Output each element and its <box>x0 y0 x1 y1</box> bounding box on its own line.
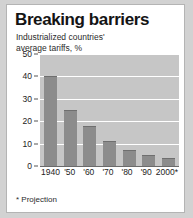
bar <box>162 158 175 166</box>
chart-plot-wrapper: 01020304050 1940'50'60'70'80'902000* <box>16 54 179 184</box>
bar-series <box>40 54 179 166</box>
chart-card: Breaking barriers Industrialized countri… <box>6 4 185 213</box>
y-axis-tick-label: 50 <box>23 49 32 59</box>
bar-slot <box>158 54 178 166</box>
bar <box>123 150 136 166</box>
y-axis-tick-label: 20 <box>23 116 32 126</box>
y-axis-tick-mark <box>34 143 38 144</box>
bar <box>103 141 116 166</box>
y-axis-tick-label: 40 <box>23 71 32 81</box>
y-axis: 01020304050 <box>16 54 38 166</box>
x-axis-tick-label: '60 <box>79 167 98 177</box>
bar <box>142 155 155 166</box>
x-axis-tick-label: 1940 <box>41 167 60 177</box>
y-axis-tick-label: 10 <box>23 139 32 149</box>
bar-slot <box>100 54 120 166</box>
bar-slot <box>61 54 81 166</box>
y-axis-tick-mark <box>34 121 38 122</box>
y-axis-tick-mark <box>34 76 38 77</box>
bar-slot <box>80 54 100 166</box>
bar-slot <box>119 54 139 166</box>
page-title: Breaking barriers <box>15 10 149 29</box>
y-axis-tick-label: 0 <box>27 161 32 171</box>
bar <box>83 126 96 166</box>
x-axis-tick-label: '80 <box>118 167 137 177</box>
y-axis-tick-mark <box>34 98 38 99</box>
x-axis-tick-label: '50 <box>60 167 79 177</box>
chart-footnote: * Projection <box>16 195 57 204</box>
x-axis-tick-label: '90 <box>137 167 156 177</box>
plot-area <box>40 54 179 166</box>
bar <box>44 76 57 166</box>
bar-slot <box>41 54 61 166</box>
y-axis-tick-label: 30 <box>23 94 32 104</box>
y-axis-tick-mark <box>34 166 38 167</box>
y-axis-tick-mark <box>34 54 38 55</box>
x-axis: 1940'50'60'70'80'902000* <box>40 167 179 177</box>
bar <box>64 110 77 166</box>
chart-subtitle-line-1: Industrialized countries' <box>16 32 105 43</box>
x-axis-tick-label: 2000* <box>156 167 178 177</box>
x-axis-tick-label: '70 <box>98 167 117 177</box>
bar-slot <box>139 54 159 166</box>
